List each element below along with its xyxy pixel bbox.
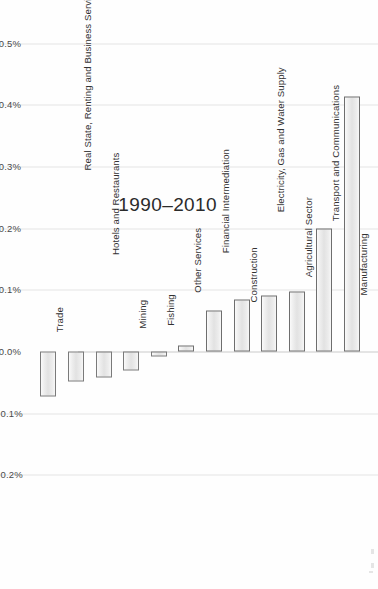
scan-artifact-2: [371, 563, 374, 568]
bar: [40, 351, 56, 396]
gridline-neg0p1: [0, 413, 378, 414]
category-label: Real State, Renting and Business Service…: [82, 0, 93, 170]
gridline-0p3: [0, 166, 378, 167]
plot-area: 0.5%0.4%0.3%0.2%0.1%0.0%-0.1%-0.2%Manufa…: [0, 0, 378, 589]
chart-title: 1990–2010: [118, 193, 217, 215]
bar: [316, 228, 332, 351]
bar: [123, 351, 139, 370]
bar: [289, 291, 305, 351]
category-label: Electricity, Gas and Water Supply: [275, 67, 286, 212]
scanned-page: 0.5%0.4%0.3%0.2%0.1%0.0%-0.1%-0.2%Manufa…: [0, 0, 378, 589]
category-label: Other Services: [192, 227, 203, 292]
category-label: Transport and Communications: [330, 84, 341, 220]
bar: [151, 351, 167, 356]
category-label: Trade: [54, 307, 65, 332]
axis-tick-label: 0.0%: [0, 345, 21, 356]
axis-tick-label: -0.2%: [0, 469, 23, 480]
category-label: Financial Intermediation: [220, 148, 231, 252]
chart-figure: 0.5%0.4%0.3%0.2%0.1%0.0%-0.1%-0.2%Manufa…: [0, 0, 378, 589]
axis-tick-label: 0.3%: [0, 161, 21, 172]
bar: [68, 351, 84, 381]
gridline-0p4: [0, 104, 378, 105]
bar: [206, 310, 222, 351]
axis-tick-label: 0.2%: [0, 222, 21, 233]
category-label: Mining: [137, 299, 148, 328]
scan-artifact-1: [371, 549, 374, 554]
bar: [234, 299, 250, 351]
axis-tick-label: 0.4%: [0, 99, 21, 110]
category-label: Construction: [247, 247, 258, 302]
bar: [178, 345, 194, 351]
bar: [344, 96, 360, 351]
bar: [96, 351, 112, 377]
gridline-0p5: [0, 43, 378, 44]
category-label: Agricultural Sector: [302, 196, 313, 276]
bar: [261, 295, 277, 351]
axis-tick-label: 0.1%: [0, 284, 21, 295]
category-label: Manufacturing: [358, 233, 369, 295]
scan-artifact-3: [369, 571, 373, 573]
gridline-neg0p2: [0, 474, 378, 475]
axis-tick-label: 0.5%: [0, 37, 21, 48]
axis-tick-label: -0.1%: [0, 407, 23, 418]
category-label: Fishing: [164, 294, 175, 326]
